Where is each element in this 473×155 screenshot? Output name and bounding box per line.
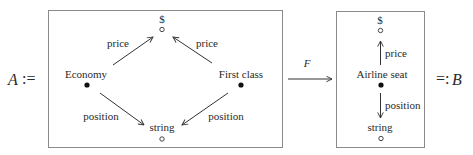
node-b-string-open-circle: [379, 136, 383, 140]
node-a-dollar-open-circle: [160, 27, 164, 31]
symbol-a: A: [7, 71, 18, 88]
symbol-b: B: [452, 71, 462, 88]
node-b-dollar-label: $: [377, 14, 383, 26]
edge-a-first-class-position-label: position: [208, 110, 244, 122]
define-operator-right: =:: [436, 70, 449, 87]
edge-a-first-class-price-label: price: [196, 37, 218, 49]
node-a-economy-dot: [84, 82, 89, 87]
edge-a-economy-position-label: position: [83, 110, 119, 122]
edge-b-price-label: price: [385, 47, 407, 59]
edge-a-economy-price-label: price: [107, 37, 129, 49]
node-b-airline-seat-label: Airline seat: [356, 68, 407, 80]
node-a-economy-label: Economy: [65, 68, 108, 80]
node-a-first-class-label: First class: [219, 68, 263, 80]
node-a-dollar-label: $: [159, 13, 165, 25]
node-a-string-label: string: [149, 121, 175, 133]
define-operator-left: :=: [22, 70, 35, 87]
node-b-string-label: string: [367, 121, 393, 133]
edge-b-position-label: position: [385, 99, 421, 111]
node-a-first-class-dot: [238, 82, 243, 87]
node-b-dollar-open-circle: [378, 28, 382, 32]
node-a-string-open-circle: [160, 137, 164, 141]
node-b-airline-seat-dot: [378, 82, 383, 87]
functor-label: F: [303, 57, 311, 69]
functor-diagram: A := $ Economy First class string price …: [0, 0, 473, 155]
